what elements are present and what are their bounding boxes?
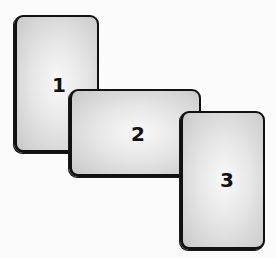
card-1-number: 1 xyxy=(52,75,66,95)
card-2-number: 2 xyxy=(131,124,145,144)
diagram-canvas: 1 2 3 xyxy=(0,0,276,258)
card-3: 3 xyxy=(180,111,265,250)
card-3-number: 3 xyxy=(220,170,234,190)
